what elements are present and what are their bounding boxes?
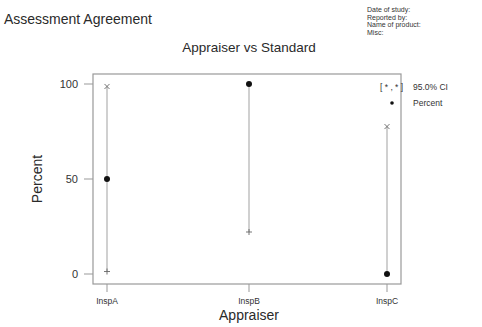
percent-point	[384, 271, 390, 277]
x-tick-label: InspB	[238, 296, 260, 306]
legend-percent-label: Percent	[413, 98, 443, 108]
legend: [ * , * ] 95.0% CI Percent	[380, 82, 448, 108]
legend-ci-symbol: [ * , * ]	[380, 82, 403, 92]
y-tick-label: 50	[66, 173, 78, 185]
x-tick-label: InspC	[376, 296, 398, 306]
x-tick-label: InspA	[96, 296, 118, 306]
legend-point-icon	[390, 101, 394, 105]
percent-point	[104, 176, 110, 182]
x-axis-title: Appraiser	[219, 307, 279, 323]
data-series	[104, 81, 390, 277]
y-axis: 050100	[60, 78, 93, 280]
y-tick-label: 100	[60, 78, 78, 90]
y-axis-title: Percent	[29, 155, 45, 203]
plot-frame	[93, 74, 401, 284]
x-axis: InspAInspBInspC	[96, 284, 398, 306]
chart-plot: 050100 InspAInspBInspC Percent Appraiser…	[0, 0, 482, 327]
legend-ci-label: 95.0% CI	[413, 82, 448, 92]
y-tick-label: 0	[72, 268, 78, 280]
percent-point	[246, 81, 252, 87]
